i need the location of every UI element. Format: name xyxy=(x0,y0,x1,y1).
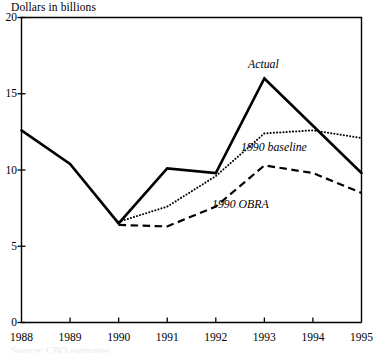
x-tick-label: 1990 xyxy=(99,331,139,343)
y-tick-label: 20 xyxy=(0,11,17,23)
x-tick-label: 1989 xyxy=(50,331,90,343)
y-tick-label: 15 xyxy=(0,87,17,99)
series-annotation-obra: 1990 OBRA xyxy=(212,198,269,211)
y-tick-label: 10 xyxy=(0,164,17,176)
y-tick-label: 5 xyxy=(0,240,17,252)
x-axis-ticks xyxy=(70,318,313,323)
series-annotation-baseline: 1990 baseline xyxy=(241,141,307,154)
chart-plot-area xyxy=(0,0,382,353)
x-tick-label: 1992 xyxy=(196,331,236,343)
chart-figure: Dollars in billions 05101520 19881989199… xyxy=(0,0,382,353)
data-series-group xyxy=(22,79,362,227)
source-caption: Source: CBO estimates. xyxy=(11,345,112,353)
series-line-actual xyxy=(22,79,362,224)
x-tick-label: 1991 xyxy=(147,331,187,343)
x-tick-label: 1993 xyxy=(244,331,284,343)
x-tick-label: 1994 xyxy=(293,331,333,343)
x-tick-label: 1995 xyxy=(342,331,382,343)
series-line-1990-obra xyxy=(119,165,362,226)
series-annotation-actual: Actual xyxy=(248,58,279,71)
y-tick-label: 0 xyxy=(0,316,17,328)
x-tick-label: 1988 xyxy=(2,331,42,343)
